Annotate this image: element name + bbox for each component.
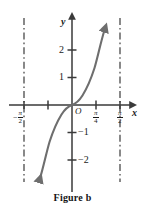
fraction-pi-over-2: π 2	[117, 110, 123, 126]
y-tick-label-1: 1	[59, 72, 64, 82]
fraction-numerator: π	[93, 110, 99, 117]
origin-label: O	[75, 107, 82, 116]
y-tick-label-neg-2: −2	[78, 155, 89, 165]
tangent-graph-plot	[0, 0, 145, 214]
y-tick-label-neg-1: −1	[78, 127, 89, 137]
y-tick-label-2: 2	[59, 45, 64, 55]
fraction-denominator: 2	[117, 117, 123, 125]
fraction-neg-pi-over-2: π 2	[18, 110, 24, 126]
figure-container: y x O 2 1 −1 −2 − π 2 π 4 π 2 Figure b	[0, 0, 145, 214]
fraction-numerator: π	[117, 110, 123, 117]
fraction-pi-over-4: π 4	[93, 110, 99, 126]
x-axis-label: x	[132, 108, 137, 118]
y-axis-label: y	[61, 17, 65, 27]
x-tick-label-neg-pi-over-2: − π 2	[13, 110, 23, 126]
fraction-denominator: 4	[93, 117, 99, 125]
fraction-numerator: π	[18, 110, 24, 117]
fraction-denominator: 2	[18, 117, 24, 125]
figure-caption: Figure b	[0, 192, 145, 203]
x-tick-label-pi-over-2: π 2	[117, 110, 123, 126]
x-tick-label-pi-over-4: π 4	[93, 110, 99, 126]
